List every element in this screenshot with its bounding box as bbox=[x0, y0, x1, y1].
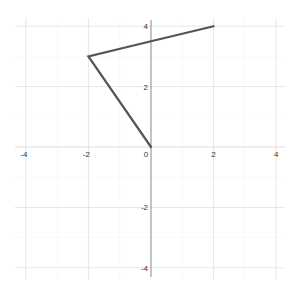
y-tick-label: 2 bbox=[144, 83, 149, 92]
y-tick-label: 4 bbox=[144, 22, 149, 31]
x-tick-label: 0 bbox=[144, 150, 149, 159]
axes bbox=[15, 20, 285, 277]
x-tick-label: -2 bbox=[83, 150, 91, 159]
chart-canvas: -4-2024-4-224 bbox=[0, 0, 299, 295]
x-tick-label: 2 bbox=[211, 150, 216, 159]
x-tick-label: -4 bbox=[20, 150, 28, 159]
y-tick-label: -2 bbox=[141, 203, 149, 212]
y-tick-label: -4 bbox=[141, 264, 149, 273]
grid-lines bbox=[15, 18, 285, 280]
x-tick-label: 4 bbox=[274, 150, 279, 159]
